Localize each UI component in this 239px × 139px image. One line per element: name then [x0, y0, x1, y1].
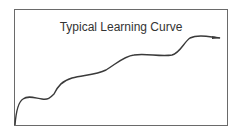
learning-curve-plot	[0, 0, 239, 139]
learning-curve-line	[15, 36, 220, 125]
